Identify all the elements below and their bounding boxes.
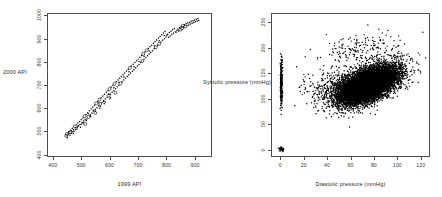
- y-tick-mark: [44, 15, 47, 16]
- y-tick-label: 200: [260, 43, 266, 52]
- y-axis-label-bloodpressure: Systolic pressure (mmHg): [203, 79, 271, 85]
- x-tick-label: 80: [371, 162, 377, 168]
- y-tick-mark: [44, 155, 47, 156]
- y-tick-label: 50: [260, 121, 266, 127]
- x-tick-label: 40: [324, 162, 330, 168]
- x-tick-mark: [53, 157, 54, 160]
- x-tick-label: 900: [190, 162, 199, 168]
- y-tick-label: 100: [260, 94, 266, 103]
- panel-api-scatter: 4005006007008009004005006007008009001000…: [0, 0, 221, 197]
- x-tick-label: 500: [77, 162, 86, 168]
- x-tick-mark: [138, 157, 139, 160]
- x-tick-mark: [421, 157, 422, 160]
- y-tick-label: 500: [36, 127, 42, 136]
- x-tick-label: 800: [162, 162, 171, 168]
- y-axis-label-api: 2000 API: [3, 69, 27, 75]
- y-tick-mark: [44, 131, 47, 132]
- y-tick-mark: [268, 150, 271, 151]
- data-points-api: [48, 14, 211, 156]
- x-tick-label: 700: [134, 162, 143, 168]
- x-tick-label: 60: [348, 162, 354, 168]
- y-tick-label: 150: [260, 69, 266, 78]
- x-tick-mark: [110, 157, 111, 160]
- plot-area-bloodpressure: [271, 13, 430, 157]
- y-tick-mark: [44, 62, 47, 63]
- y-tick-label: 0: [260, 148, 266, 151]
- y-tick-mark: [44, 108, 47, 109]
- x-tick-mark: [351, 157, 352, 160]
- y-tick-mark: [268, 22, 271, 23]
- panel-bloodpressure-scatter: 020406080100120050100150200250 Diastolic…: [221, 0, 442, 197]
- y-tick-label: 600: [36, 104, 42, 113]
- x-tick-mark: [374, 157, 375, 160]
- y-tick-label: 900: [36, 34, 42, 43]
- x-tick-label: 400: [48, 162, 57, 168]
- x-tick-label: 0: [279, 162, 282, 168]
- y-tick-label: 700: [36, 81, 42, 90]
- x-tick-mark: [327, 157, 328, 160]
- x-tick-mark: [166, 157, 167, 160]
- y-tick-mark: [268, 73, 271, 74]
- figure-two-scatterplots: 4005006007008009004005006007008009001000…: [0, 0, 442, 197]
- x-tick-label: 120: [416, 162, 425, 168]
- x-tick-mark: [81, 157, 82, 160]
- x-axis-label-api: 1999 API: [118, 181, 142, 187]
- y-tick-mark: [268, 48, 271, 49]
- x-tick-mark: [280, 157, 281, 160]
- x-tick-label: 600: [105, 162, 114, 168]
- y-tick-mark: [44, 85, 47, 86]
- data-points-bloodpressure: [272, 14, 429, 156]
- x-tick-mark: [304, 157, 305, 160]
- x-tick-mark: [397, 157, 398, 160]
- y-tick-mark: [268, 99, 271, 100]
- x-tick-label: 20: [301, 162, 307, 168]
- x-axis-label-bloodpressure: Diastolic pressure (mmHg): [316, 181, 386, 187]
- y-tick-label: 400: [36, 150, 42, 159]
- y-tick-mark: [268, 124, 271, 125]
- y-tick-label: 800: [36, 57, 42, 66]
- plot-area-api: [47, 13, 212, 157]
- y-tick-mark: [44, 39, 47, 40]
- y-tick-label: 1000: [36, 9, 42, 21]
- x-tick-label: 100: [393, 162, 402, 168]
- x-tick-mark: [195, 157, 196, 160]
- y-tick-label: 250: [260, 18, 266, 27]
